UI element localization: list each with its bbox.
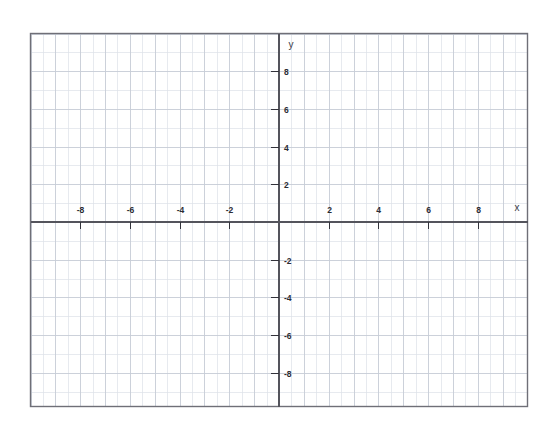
- canvas-background: [0, 0, 554, 437]
- x-tick-label: -6: [127, 205, 135, 215]
- y-tick-label: 6: [284, 105, 289, 115]
- x-tick-label: 6: [426, 205, 431, 215]
- y-tick-label: 4: [284, 143, 289, 153]
- x-tick-label: -8: [77, 205, 85, 215]
- graph-paper-figure: -8-6-4-22468 8642-2-4-6-8 x y: [0, 0, 554, 437]
- x-axis-label: x: [515, 202, 520, 213]
- x-tick-label: 8: [476, 205, 481, 215]
- y-tick-label: -6: [284, 331, 292, 341]
- y-tick-label: -2: [284, 256, 292, 266]
- coordinate-plane-svg: -8-6-4-22468 8642-2-4-6-8 x y: [0, 0, 554, 437]
- x-tick-label: -2: [226, 205, 234, 215]
- x-tick-label: 2: [327, 205, 332, 215]
- y-tick-label: -8: [284, 369, 292, 379]
- y-tick-label: -4: [284, 293, 292, 303]
- x-tick-label: -4: [177, 205, 185, 215]
- y-tick-label: 8: [284, 67, 289, 77]
- y-axis-label: y: [289, 39, 294, 50]
- x-tick-label: 4: [376, 205, 381, 215]
- y-tick-label: 2: [284, 180, 289, 190]
